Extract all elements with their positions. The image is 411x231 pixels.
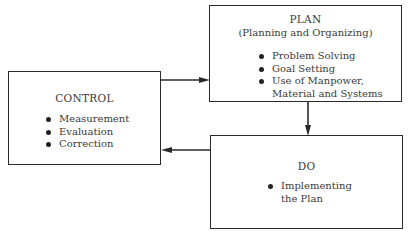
- control-title: CONTROL: [9, 92, 160, 104]
- control-item-correction: Correction: [45, 138, 129, 151]
- bullet-icon: [268, 184, 273, 189]
- bullet-icon: [46, 142, 51, 147]
- bullet-icon: [259, 79, 264, 84]
- arrow-do-to-control: [161, 147, 210, 153]
- control-list: Measurement Evaluation Correction: [45, 113, 129, 151]
- plan-item-problem-solving: Problem Solving: [258, 50, 383, 63]
- plan-box: PLAN (Planning and Organizing) Problem S…: [209, 5, 402, 102]
- arrow-control-to-plan: [161, 77, 210, 83]
- plan-item-use-of-manpower: Use of Manpower, Material and Systems: [258, 75, 383, 100]
- control-item-measurement: Measurement: [45, 113, 129, 126]
- control-item-evaluation: Evaluation: [45, 126, 129, 139]
- plan-list: Problem Solving Goal Setting Use of Manp…: [258, 50, 383, 100]
- plan-item-goal-setting: Goal Setting: [258, 63, 383, 76]
- bullet-icon: [46, 117, 51, 122]
- control-box: CONTROL Measurement Evaluation Correctio…: [8, 71, 161, 165]
- do-title: DO: [211, 160, 402, 172]
- bullet-icon: [259, 54, 264, 59]
- arrow-plan-to-do: [305, 101, 311, 136]
- do-box: DO Implementing the Plan: [210, 135, 403, 229]
- bullet-icon: [46, 130, 51, 135]
- bullet-icon: [259, 67, 264, 72]
- plan-title: PLAN: [210, 13, 401, 25]
- do-list: Implementing the Plan: [267, 180, 352, 205]
- do-item-implementing: Implementing the Plan: [267, 180, 352, 205]
- plan-subtitle: (Planning and Organizing): [210, 27, 401, 38]
